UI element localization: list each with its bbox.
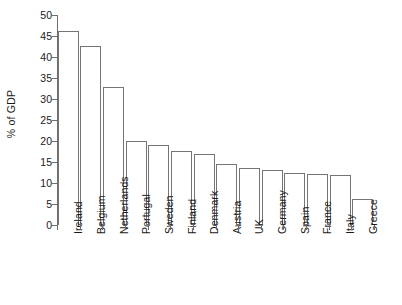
bar (58, 31, 79, 225)
x-axis-category-label-text: France (321, 201, 333, 234)
x-axis-category-label-text: Netherlands (118, 176, 130, 234)
y-axis-tick-label: 45 (40, 30, 52, 42)
y-axis-tick-labels: 05101520253035404550 (22, 0, 52, 230)
x-axis-tick-mark (351, 225, 352, 230)
x-axis-tick-mark (329, 225, 330, 230)
y-axis-tick-label: 50 (40, 9, 52, 21)
x-axis-tick-mark (374, 225, 375, 230)
y-axis-tick-label: 30 (40, 93, 52, 105)
x-axis-category-label-text: Finland (186, 199, 198, 234)
x-axis-category-label-text: Belgium (95, 195, 107, 234)
y-axis-tick-mark (52, 57, 57, 58)
x-axis-tick-mark (57, 225, 58, 230)
x-axis-category-label-text: Sweden (163, 195, 175, 234)
y-axis-tick-mark (52, 141, 57, 142)
x-axis-category-label-text: UK (253, 219, 265, 234)
y-axis-tick-label: 40 (40, 51, 52, 63)
x-axis-category-labels: IrelandBelgiumNetherlandsPortugalSwedenF… (57, 230, 374, 305)
y-axis-tick-mark (52, 162, 57, 163)
x-axis-tick-mark (283, 225, 284, 230)
x-axis-tick-mark (193, 225, 194, 230)
x-axis-tick-mark (148, 225, 149, 230)
x-axis-tick-mark (216, 225, 217, 230)
x-axis-category-label-text: Spain (299, 207, 311, 234)
y-axis-tick-label: 10 (40, 177, 52, 189)
x-axis-tick-mark (170, 225, 171, 230)
x-axis-tick-mark (125, 225, 126, 230)
y-axis-tick-mark (52, 204, 57, 205)
y-axis-tick-mark (52, 36, 57, 37)
y-axis-tick-label: 25 (40, 114, 52, 126)
y-axis-title-text: % of GDP (5, 90, 17, 138)
y-axis-tick-label: 35 (40, 72, 52, 84)
x-axis-tick-mark (306, 225, 307, 230)
x-axis-tick-mark (238, 225, 239, 230)
x-axis-category-label-text: Denmark (208, 191, 220, 234)
x-axis-category-label-text: Ireland (72, 201, 84, 234)
x-axis-category-label-text: Austria (231, 201, 243, 234)
y-axis-tick-mark (52, 15, 57, 16)
x-axis-category-label-text: Greece (367, 199, 379, 234)
y-axis-tick-mark (52, 183, 57, 184)
x-axis-category-label-text: Portugal (140, 194, 152, 234)
y-axis-tick-mark (52, 78, 57, 79)
y-axis-tick-mark (52, 99, 57, 100)
x-axis-tick-mark (80, 225, 81, 230)
y-axis-tick-label: 20 (40, 135, 52, 147)
x-axis-tick-mark (102, 225, 103, 230)
bar-chart: % of GDP 05101520253035404550 IrelandBel… (0, 0, 402, 305)
y-axis-title: % of GDP (0, 0, 22, 228)
x-axis-tick-mark (261, 225, 262, 230)
y-axis-tick-label: 15 (40, 156, 52, 168)
y-axis-tick-mark (52, 120, 57, 121)
